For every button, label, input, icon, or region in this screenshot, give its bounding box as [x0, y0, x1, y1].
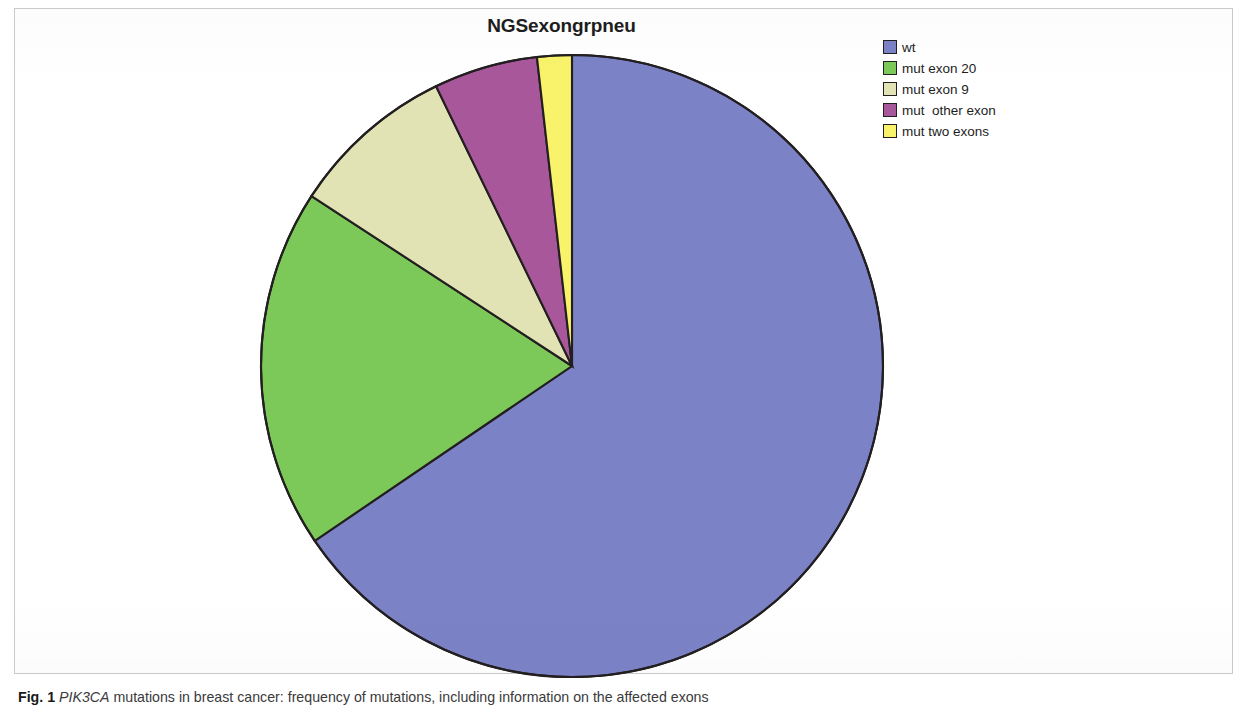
chart-panel: NGSexongrpneu wt mut exon 20 mut exon 9 … — [14, 8, 1233, 674]
legend-label-mut-exon-9: mut exon 9 — [902, 82, 969, 97]
pie-slice-group — [261, 55, 883, 677]
figure-caption: Fig. 1 PIK3CA mutations in breast cancer… — [18, 688, 1218, 706]
legend-item-mut-exon-9[interactable]: mut exon 9 — [883, 79, 1093, 99]
legend-swatch-mut-exon-20 — [883, 61, 897, 75]
legend-item-wt[interactable]: wt — [883, 37, 1093, 57]
caption-body-text: mutations in breast cancer: frequency of… — [109, 689, 708, 705]
legend-label-mut-other-exon: mut other exon — [902, 103, 996, 118]
legend-item-mut-two-exons[interactable]: mut two exons — [883, 121, 1093, 141]
caption-gene-name: PIK3CA — [59, 689, 109, 705]
legend-label-wt: wt — [902, 40, 916, 55]
legend-swatch-wt — [883, 40, 897, 54]
legend-item-mut-other-exon[interactable]: mut other exon — [883, 100, 1093, 120]
caption-figure-number: Fig. 1 — [18, 689, 55, 705]
chart-legend: wt mut exon 20 mut exon 9 mut other exon… — [883, 37, 1093, 142]
pie-chart-svg — [259, 53, 885, 679]
legend-swatch-mut-other-exon — [883, 103, 897, 117]
legend-item-mut-exon-20[interactable]: mut exon 20 — [883, 58, 1093, 78]
legend-swatch-mut-two-exons — [883, 124, 897, 138]
legend-label-mut-two-exons: mut two exons — [902, 124, 989, 139]
figure-root: NGSexongrpneu wt mut exon 20 mut exon 9 … — [0, 0, 1249, 722]
legend-label-mut-exon-20: mut exon 20 — [902, 61, 976, 76]
legend-swatch-mut-exon-9 — [883, 82, 897, 96]
